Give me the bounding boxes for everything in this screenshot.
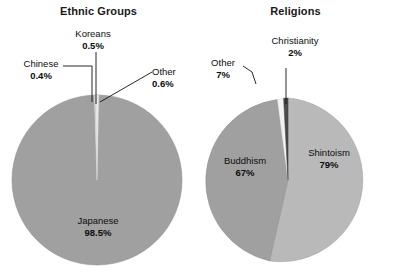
pie-label-shintoism: Shintoism 79% bbox=[296, 147, 362, 170]
pie-label-japanese-percent: 98.5% bbox=[56, 227, 140, 239]
pie-label-koreans-percent: 0.5% bbox=[58, 40, 128, 52]
pie-label-buddhism-name: Buddhism bbox=[212, 155, 278, 167]
pie-label-christianity-percent: 2% bbox=[252, 47, 338, 59]
pie-label-chinese-percent: 0.4% bbox=[10, 70, 72, 82]
pie-label-other-religion-name: Other bbox=[196, 57, 250, 69]
pie-label-chinese: Chinese 0.4% bbox=[10, 58, 72, 81]
pie-label-buddhism: Buddhism 67% bbox=[212, 155, 278, 178]
pie-label-other-religion-percent: 7% bbox=[196, 69, 250, 81]
pie-label-other-religion: Other 7% bbox=[196, 57, 250, 80]
pie-label-shintoism-percent: 79% bbox=[296, 159, 362, 171]
pie-label-christianity-name: Christianity bbox=[252, 35, 338, 47]
pie-label-christianity: Christianity 2% bbox=[252, 35, 338, 58]
pie-ethnic-groups bbox=[12, 95, 182, 265]
chart-canvas: Ethnic Groups Religions bbox=[0, 0, 394, 273]
pie-label-koreans: Koreans 0.5% bbox=[58, 28, 128, 51]
pie-label-koreans-name: Koreans bbox=[58, 28, 128, 40]
pie-label-japanese-name: Japanese bbox=[56, 215, 140, 227]
pie-label-buddhism-percent: 67% bbox=[212, 167, 278, 179]
pie-label-japanese: Japanese 98.5% bbox=[56, 215, 140, 238]
leader-line-other-ethnic bbox=[100, 72, 152, 102]
pie-label-shintoism-name: Shintoism bbox=[296, 147, 362, 159]
pie-label-chinese-name: Chinese bbox=[10, 58, 72, 70]
pie-religions bbox=[206, 98, 363, 262]
